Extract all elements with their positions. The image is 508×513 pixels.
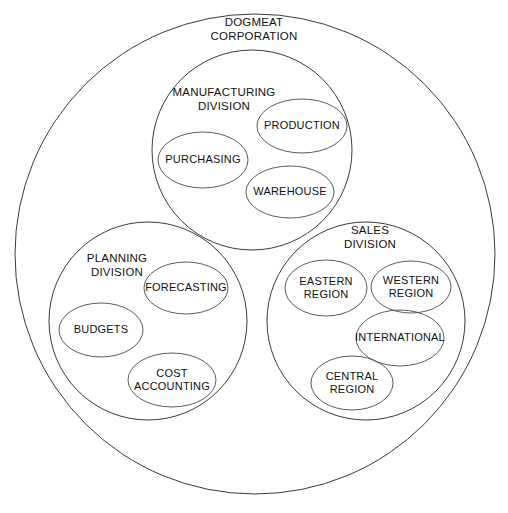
purchasing-ellipse-outline: [158, 132, 248, 188]
warehouse-ellipse-outline: [246, 166, 334, 218]
central-region-ellipse-outline: [311, 356, 393, 410]
western-region-ellipse-outline: [371, 261, 451, 313]
diagram-canvas: [0, 0, 508, 513]
production-ellipse-outline: [257, 99, 347, 153]
international-ellipse-outline: [356, 310, 444, 366]
budgets-ellipse-outline: [59, 303, 143, 357]
planning-division-circle-outline: [49, 222, 247, 420]
cost-accounting-ellipse-outline: [128, 353, 216, 407]
organization-circle-outline: [15, 14, 495, 494]
forecasting-ellipse-outline: [144, 262, 228, 314]
org-structure-diagram: DOGMEAT CORPORATION MANUFACTURING DIVISI…: [0, 0, 508, 513]
eastern-region-ellipse-outline: [285, 260, 367, 316]
